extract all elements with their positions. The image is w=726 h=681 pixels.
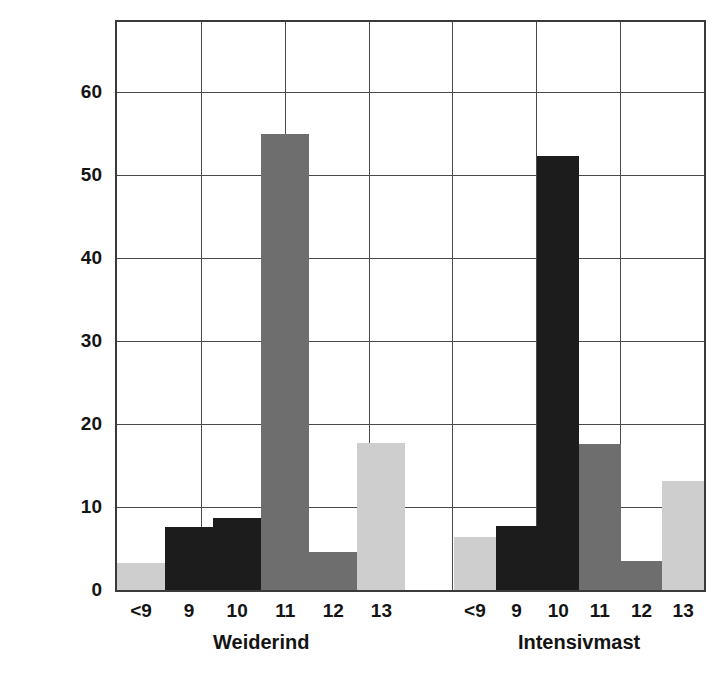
x-tick-label: 11: [275, 600, 295, 622]
gridline-horizontal: [117, 92, 704, 93]
bar: [579, 444, 621, 590]
plot-area: [115, 20, 706, 592]
bar: [454, 537, 496, 590]
y-tick-label: 10: [46, 496, 102, 518]
x-tick-label: 9: [511, 600, 522, 622]
bar: [496, 526, 538, 590]
y-tick-label: 20: [46, 413, 102, 435]
bar: [165, 527, 213, 590]
x-tick-label: 13: [673, 600, 694, 622]
chart-container: Häufigkeit (%) <9910111213Weiderind<9910…: [0, 0, 726, 681]
plot-inner: [117, 22, 704, 590]
x-tick-label: 9: [184, 600, 195, 622]
y-tick-label: 60: [46, 81, 102, 103]
y-tick-label: 50: [46, 164, 102, 186]
x-tick-label: 12: [631, 600, 652, 622]
bar: [357, 443, 405, 590]
bar: [213, 518, 261, 590]
gridline-horizontal: [117, 175, 704, 176]
gridline-vertical: [201, 22, 202, 590]
y-axis-title: Häufigkeit (%): [0, 0, 34, 681]
bar: [537, 156, 579, 590]
gridline-horizontal: [117, 424, 704, 425]
y-tick-label: 30: [46, 330, 102, 352]
x-tick-label: <9: [130, 600, 152, 622]
gridline-horizontal: [117, 258, 704, 259]
x-tick-label: 10: [548, 600, 569, 622]
bar: [261, 134, 309, 590]
bar: [621, 561, 663, 590]
x-tick-label: 12: [323, 600, 344, 622]
y-tick-label: 0: [46, 579, 102, 601]
group-label-weiderind: Weiderind: [213, 631, 309, 654]
x-tick-label: 11: [590, 600, 610, 622]
bar: [309, 552, 357, 590]
y-tick-label: 40: [46, 247, 102, 269]
bar: [662, 481, 704, 590]
gridline-vertical: [452, 22, 453, 590]
gridline-horizontal: [117, 341, 704, 342]
group-label-intensivmast: Intensivmast: [518, 631, 640, 654]
x-tick-label: <9: [464, 600, 486, 622]
x-tick-label: 10: [227, 600, 248, 622]
bar: [117, 563, 165, 590]
x-tick-label: 13: [371, 600, 392, 622]
